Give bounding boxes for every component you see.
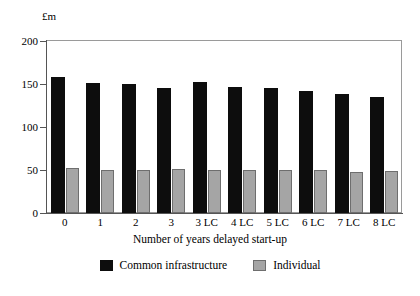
x-tick-label: 2: [118, 216, 154, 229]
bar-group: [154, 41, 190, 213]
y-tick-label-wrap: 50: [0, 170, 38, 171]
y-tick-label: 50: [2, 165, 38, 176]
bar-group: [47, 41, 83, 213]
x-tick-label: 0: [47, 216, 83, 229]
y-tick-mark: [40, 170, 47, 171]
bar-individual: [279, 170, 292, 213]
bar-chart: £m 050100150200 01233 LC4 LC5 LC6 LC7 LC…: [0, 0, 420, 296]
legend-label-common-infrastructure: Common infrastructure: [120, 258, 228, 272]
bar-individual: [66, 168, 79, 213]
bar-individual: [243, 170, 256, 213]
bar-common-infrastructure: [370, 97, 384, 213]
bar-individual: [385, 171, 398, 213]
y-tick-mark: [40, 84, 47, 85]
x-axis-title: Number of years delayed start-up: [0, 232, 420, 246]
bar-common-infrastructure: [264, 88, 278, 213]
bar-common-infrastructure: [299, 91, 313, 213]
x-tick-label: 4 LC: [225, 216, 261, 229]
x-tick-label: 7 LC: [331, 216, 367, 229]
y-tick-label: 100: [2, 122, 38, 133]
y-tick-label-wrap: 200: [0, 41, 38, 42]
chart-legend: Common infrastructure Individual: [0, 258, 420, 272]
legend-label-individual: Individual: [273, 258, 320, 272]
bar-common-infrastructure: [157, 88, 171, 213]
x-tick-label: 1: [83, 216, 119, 229]
bar-group: [260, 41, 296, 213]
y-tick-label: 150: [2, 79, 38, 90]
bar-common-infrastructure: [86, 83, 100, 213]
bar-common-infrastructure: [228, 87, 242, 213]
bar-common-infrastructure: [193, 82, 207, 213]
y-tick-mark: [40, 41, 47, 42]
bar-individual: [137, 170, 150, 213]
x-tick-label: 5 LC: [260, 216, 296, 229]
bar-individual: [350, 172, 363, 213]
y-tick-label: 0: [2, 208, 38, 219]
y-tick-mark: [40, 127, 47, 128]
y-tick-label-wrap: 150: [0, 84, 38, 85]
bar-group: [189, 41, 225, 213]
x-tick-label: 6 LC: [296, 216, 332, 229]
bar-individual: [101, 170, 114, 213]
bar-group: [296, 41, 332, 213]
x-tick-label: 8 LC: [367, 216, 403, 229]
bar-group: [83, 41, 119, 213]
bar-individual: [314, 170, 327, 213]
bars-area: [47, 41, 402, 213]
bar-individual: [208, 170, 221, 213]
legend-entry-common-infrastructure: Common infrastructure: [100, 258, 228, 272]
bar-common-infrastructure: [122, 84, 136, 213]
legend-swatch-common-infrastructure: [100, 260, 113, 271]
x-axis-line: [46, 213, 403, 214]
bar-group: [331, 41, 367, 213]
y-axis-unit-label: £m: [42, 10, 56, 23]
legend-swatch-individual: [253, 260, 266, 271]
y-tick-label-wrap: 0: [0, 213, 38, 214]
y-tick-mark: [40, 213, 47, 214]
y-tick-label: 200: [2, 36, 38, 47]
x-tick-label: 3: [154, 216, 190, 229]
bar-group: [225, 41, 261, 213]
y-tick-label-wrap: 100: [0, 127, 38, 128]
bar-group: [367, 41, 403, 213]
bar-group: [118, 41, 154, 213]
bar-individual: [172, 169, 185, 213]
bar-common-infrastructure: [335, 94, 349, 213]
bar-common-infrastructure: [51, 77, 65, 213]
x-tick-label: 3 LC: [189, 216, 225, 229]
legend-entry-individual: Individual: [253, 258, 320, 272]
